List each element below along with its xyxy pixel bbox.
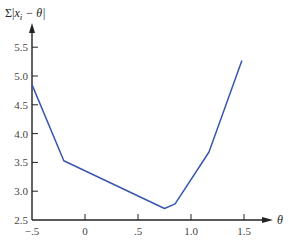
x-tick-label: .5 (134, 225, 143, 237)
x-tick-label: 1.0 (184, 225, 198, 237)
chart: Σ|xi − θ| θ 2.53.03.54.04.55.05.5 −.50.5… (0, 0, 289, 242)
y-tick-label: 4.0 (14, 128, 28, 140)
x-axis-title: θ (277, 213, 283, 227)
y-ticks: 2.53.03.54.04.55.05.5 (14, 41, 38, 226)
data-line (32, 60, 242, 208)
y-tick-label: 3.0 (14, 185, 28, 197)
y-axis-arrow-icon (29, 23, 35, 33)
y-tick-label: 4.5 (14, 99, 28, 111)
y-axis-title: Σ|xi − θ| (5, 6, 46, 22)
x-axis-arrow-icon (262, 217, 273, 223)
y-tick-label: 5.0 (14, 70, 28, 82)
x-tick-label: 0 (82, 225, 88, 237)
x-ticks: −.50.51.01.5 (25, 214, 252, 237)
y-tick-label: 3.5 (14, 156, 28, 168)
x-tick-label: 1.5 (237, 225, 251, 237)
x-tick-label: −.5 (25, 225, 40, 237)
y-tick-label: 5.5 (14, 41, 28, 53)
